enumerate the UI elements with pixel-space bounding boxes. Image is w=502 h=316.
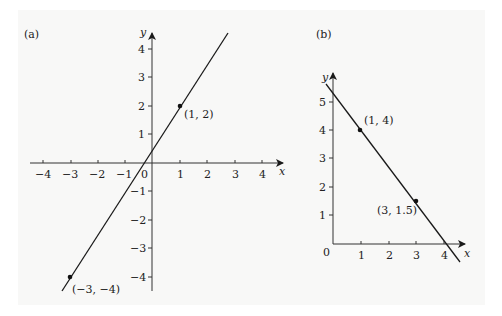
x-tick-label: −4 <box>35 168 51 181</box>
x-tick-label: 4 <box>259 168 266 181</box>
point-label: (1, 4) <box>364 114 394 127</box>
y-axis-label: y <box>139 26 147 39</box>
data-point <box>178 104 183 109</box>
x-tick-label: 1 <box>358 249 365 262</box>
x-tick-label: 2 <box>386 249 393 262</box>
x-tick-labels: −4 −3 −2 −1 1 2 3 4 <box>35 168 266 181</box>
y-tick-label: −3 <box>130 242 146 255</box>
y-tick-label: −4 <box>130 271 146 284</box>
point-label: (1, 2) <box>184 108 214 121</box>
origin-label: 0 <box>141 168 148 181</box>
origin-label: 0 <box>323 246 330 259</box>
data-point <box>358 128 363 133</box>
panel-a: (a) x y 0 −4 −3 −2 −1 1 2 3 4 <box>24 26 286 296</box>
data-point <box>414 199 419 204</box>
y-tick-label: 1 <box>319 209 326 222</box>
y-tick-label: 2 <box>138 100 145 113</box>
y-ticks <box>329 102 333 215</box>
x-axis-label: x <box>279 165 286 178</box>
figure-canvas: (a) x y 0 −4 −3 −2 −1 1 2 3 4 <box>0 0 502 316</box>
y-tick-label: 4 <box>319 124 326 137</box>
x-tick-label: 1 <box>177 168 184 181</box>
point-label: (−3, −4) <box>72 283 120 296</box>
y-tick-label: −2 <box>130 214 146 227</box>
y-tick-label: 2 <box>319 181 326 194</box>
x-tick-label: −3 <box>62 168 78 181</box>
panel-b-label: (b) <box>316 28 332 41</box>
x-tick-label: −1 <box>116 168 132 181</box>
x-tick-label: 4 <box>441 249 448 262</box>
y-tick-label: 4 <box>138 43 145 56</box>
y-tick-label: 3 <box>138 71 145 84</box>
point-label: (3, 1.5) <box>377 204 417 217</box>
panel-b: (b) x y 0 1 2 3 4 5 4 <box>316 28 471 262</box>
y-tick-label: 5 <box>319 96 326 109</box>
y-tick-label: 3 <box>319 152 326 165</box>
y-tick-label: −1 <box>130 185 146 198</box>
y-tick-labels: 5 4 3 2 1 <box>319 96 326 222</box>
plot-line <box>326 84 460 262</box>
x-tick-label: 3 <box>232 168 239 181</box>
x-tick-label: 3 <box>413 249 420 262</box>
y-axis-label: y <box>321 71 329 84</box>
data-point <box>68 275 73 280</box>
y-tick-label: 1 <box>138 128 145 141</box>
x-axis-label: x <box>464 247 471 260</box>
x-tick-label: 2 <box>204 168 211 181</box>
panel-a-label: (a) <box>24 28 39 41</box>
x-tick-label: −2 <box>89 168 105 181</box>
x-tick-labels: 1 2 3 4 <box>358 249 448 262</box>
